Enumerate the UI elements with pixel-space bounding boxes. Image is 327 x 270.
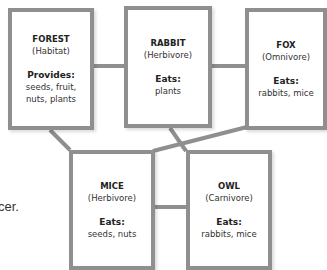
node-item: nuts, plants [12, 93, 90, 105]
node-item: seeds, fruit, [12, 81, 90, 93]
node-role: (Herbivore) [128, 49, 208, 61]
node-label: Eats: [249, 75, 323, 87]
node-mice: MICE (Herbivore) Eats: seeds, nuts [69, 150, 155, 270]
node-name: FOX [249, 39, 323, 51]
node-name: MICE [73, 180, 151, 192]
node-forest: FOREST (Habitat) Provides: seeds, fruit,… [8, 8, 94, 130]
node-item: seeds, nuts [73, 228, 151, 240]
node-label: Eats: [190, 216, 268, 228]
edge-fox-mice [153, 127, 247, 151]
node-role: (Habitat) [12, 45, 90, 57]
node-label: Eats: [73, 216, 151, 228]
node-label: Provides: [12, 69, 90, 81]
node-owl: OWL (Carnivore) Eats: rabbits, mice [186, 150, 272, 270]
node-role: (Carnivore) [190, 192, 268, 204]
node-role: (Omnivore) [249, 51, 323, 63]
node-name: RABBIT [128, 37, 208, 49]
clipped-side-text: cer. [0, 199, 19, 214]
node-rabbit: RABBIT (Herbivore) Eats: plants [124, 6, 212, 128]
node-item: rabbits, mice [249, 87, 323, 99]
node-role: (Herbivore) [73, 192, 151, 204]
node-fox: FOX (Omnivore) Eats: rabbits, mice [245, 8, 327, 130]
node-label: Eats: [128, 73, 208, 85]
node-item: plants [128, 85, 208, 97]
node-name: FOREST [12, 33, 90, 45]
edge-forest-mice [50, 130, 70, 150]
node-item: rabbits, mice [190, 228, 268, 240]
node-name: OWL [190, 180, 268, 192]
